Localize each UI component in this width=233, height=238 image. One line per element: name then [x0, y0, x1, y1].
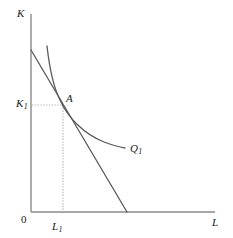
- y-tick-label-k1: K1: [16, 98, 27, 109]
- isoquant-curve-label: Q1: [130, 143, 142, 154]
- isoquant-label-base: Q: [130, 142, 138, 154]
- isoquant-label-subscript: 1: [138, 147, 142, 156]
- x-tick-subscript: 1: [58, 225, 62, 234]
- y-axis-label: K: [17, 8, 24, 19]
- x-tick-label-l1: L1: [52, 221, 62, 232]
- y-tick-base: K: [16, 97, 23, 109]
- tangency-point-label: A: [66, 93, 73, 104]
- y-tick-subscript: 1: [24, 102, 28, 111]
- isoquant-curve: [47, 46, 125, 148]
- isocost-line: [31, 50, 127, 212]
- x-axis-label: L: [212, 217, 218, 228]
- isoquant-isocost-diagram: K L 0 K1 L1 A Q1: [0, 0, 233, 238]
- origin-label: 0: [21, 214, 27, 225]
- plot-area: [0, 0, 233, 238]
